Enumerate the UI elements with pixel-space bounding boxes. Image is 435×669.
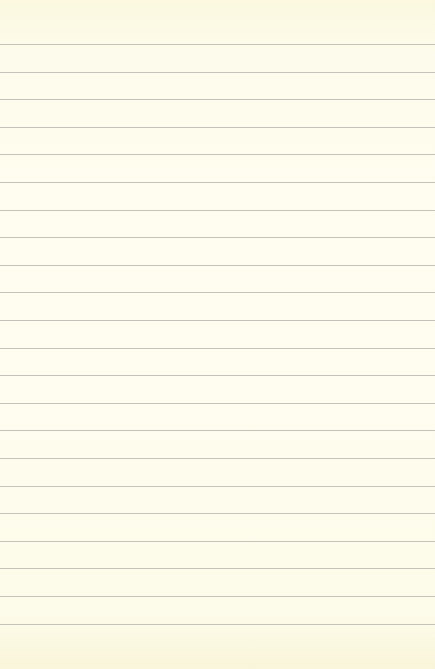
ruled-line bbox=[0, 72, 435, 73]
ruled-line bbox=[0, 624, 435, 625]
ruled-line bbox=[0, 513, 435, 514]
ruled-line bbox=[0, 375, 435, 376]
ruled-line bbox=[0, 568, 435, 569]
ruled-line bbox=[0, 430, 435, 431]
ruled-line bbox=[0, 292, 435, 293]
ruled-line bbox=[0, 320, 435, 321]
ruled-line bbox=[0, 348, 435, 349]
ruled-line bbox=[0, 265, 435, 266]
ruled-line bbox=[0, 154, 435, 155]
ruled-line bbox=[0, 210, 435, 211]
ruled-line bbox=[0, 403, 435, 404]
ruled-line bbox=[0, 486, 435, 487]
notepad-page bbox=[0, 0, 435, 669]
ruled-line bbox=[0, 127, 435, 128]
ruled-line bbox=[0, 596, 435, 597]
ruled-line bbox=[0, 182, 435, 183]
ruled-line bbox=[0, 458, 435, 459]
ruled-line bbox=[0, 237, 435, 238]
ruled-line bbox=[0, 44, 435, 45]
ruled-line bbox=[0, 541, 435, 542]
ruled-line bbox=[0, 99, 435, 100]
